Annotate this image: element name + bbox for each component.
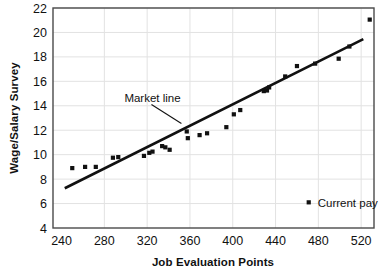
chart-background (0, 0, 385, 273)
data-point-marker (197, 133, 201, 137)
legend-label-current-pay: Current pay (318, 197, 378, 209)
y-tick-label: 10 (33, 148, 47, 162)
x-tick-label: 520 (351, 234, 372, 248)
y-tick-label: 18 (33, 50, 47, 64)
y-tick-label: 6 (40, 197, 47, 211)
scatter-chart: 46810121416182022 2402803203604004404805… (0, 0, 385, 273)
data-point-marker (94, 165, 98, 169)
x-tick-label: 400 (222, 234, 243, 248)
y-tick-label: 8 (40, 173, 47, 187)
legend-marker-current-pay (307, 200, 311, 204)
data-point-marker (238, 108, 242, 112)
data-point-marker (186, 136, 190, 140)
y-tick-label: 4 (40, 222, 47, 236)
annotation-label-market-line: Market line (124, 92, 180, 104)
x-tick-label: 360 (180, 234, 201, 248)
y-tick-label: 20 (33, 26, 47, 40)
data-point-marker (232, 112, 236, 116)
data-point-marker (224, 125, 228, 129)
data-point-marker (163, 145, 167, 149)
data-point-marker (83, 165, 87, 169)
data-point-marker (368, 18, 372, 22)
data-point-marker (116, 155, 120, 159)
y-axis-title: Wage/Salary Survey (8, 62, 20, 174)
y-tick-label: 12 (33, 124, 47, 138)
data-point-marker (313, 62, 317, 66)
x-axis-title: Job Evaluation Points (152, 256, 274, 268)
data-point-marker (283, 74, 287, 78)
data-point-marker (267, 85, 271, 89)
data-point-marker (142, 154, 146, 158)
data-point-marker (150, 150, 154, 154)
chart-legend: Current pay (307, 197, 378, 209)
data-point-marker (70, 166, 74, 170)
x-tick-label: 480 (308, 234, 329, 248)
x-tick-label: 440 (265, 234, 286, 248)
data-point-marker (347, 44, 351, 48)
data-point-marker (111, 156, 115, 160)
data-point-marker (205, 131, 209, 135)
y-tick-label: 14 (33, 99, 47, 113)
x-tick-label: 240 (51, 234, 72, 248)
data-point-marker (168, 148, 172, 152)
data-point-marker (185, 129, 189, 133)
y-tick-label: 22 (33, 2, 47, 16)
y-tick-label: 16 (33, 75, 47, 89)
data-point-marker (295, 64, 299, 68)
chart-container: 46810121416182022 2402803203604004404805… (0, 0, 385, 273)
data-point-marker (337, 57, 341, 61)
x-tick-label: 320 (137, 234, 158, 248)
x-tick-label: 280 (94, 234, 115, 248)
